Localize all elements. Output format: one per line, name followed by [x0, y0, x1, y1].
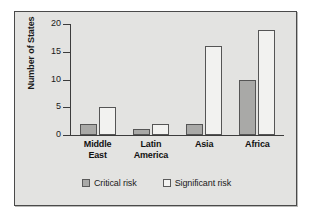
x-axis-category-labels: MiddleEastLatinAmericaAsiaAfrica — [71, 139, 284, 171]
y-axis-tick-label: 20 — [45, 19, 61, 28]
bar-significant-risk-latin-america — [152, 124, 169, 135]
legend-entry-significant: Significant risk — [163, 178, 231, 188]
y-axis-tick-mark — [63, 107, 70, 108]
bar-critical-risk-latin-america — [133, 129, 150, 135]
legend-entry-critical: Critical risk — [82, 178, 137, 188]
y-axis-tick-mark — [63, 52, 70, 53]
category-label-line: America — [124, 150, 177, 161]
x-axis-line — [70, 135, 284, 136]
chart-figure-frame: Number of States 20151050 MiddleEastLati… — [14, 11, 297, 206]
chart-legend: Critical riskSignificant risk — [15, 178, 298, 188]
category-label-middle-east: MiddleEast — [71, 139, 124, 161]
category-label-line: Latin — [124, 139, 177, 150]
y-axis-tick-label: 15 — [45, 47, 61, 56]
legend-swatch-critical-icon — [82, 179, 90, 187]
legend-label: Significant risk — [175, 178, 231, 188]
plot-area: Number of States 20151050 MiddleEastLati… — [15, 12, 298, 207]
y-axis-title: Number of States — [26, 1, 36, 105]
legend-swatch-significant-icon — [163, 179, 171, 187]
y-axis-tick-label: 0 — [45, 130, 61, 139]
y-axis-tick-mark — [63, 24, 70, 25]
y-axis-tick-label: 5 — [45, 102, 61, 111]
y-axis-tick-mark — [63, 135, 70, 136]
bar-significant-risk-africa — [258, 30, 275, 135]
category-label-latin-america: LatinAmerica — [124, 139, 177, 161]
legend-label: Critical risk — [94, 178, 137, 188]
category-label-line: Middle — [71, 139, 124, 150]
bar-critical-risk-africa — [239, 80, 256, 136]
bar-critical-risk-middle-east — [80, 124, 97, 135]
category-label-africa: Africa — [231, 139, 284, 150]
bar-critical-risk-asia — [186, 124, 203, 135]
bars-layer — [71, 24, 284, 135]
category-label-asia: Asia — [178, 139, 231, 150]
category-label-line: Asia — [178, 139, 231, 150]
bar-significant-risk-middle-east — [99, 107, 116, 135]
y-axis-tick-label: 10 — [45, 75, 61, 84]
bar-significant-risk-asia — [205, 46, 222, 135]
category-label-line: Africa — [231, 139, 284, 150]
y-axis-tick-mark — [63, 80, 70, 81]
category-label-line: East — [71, 150, 124, 161]
